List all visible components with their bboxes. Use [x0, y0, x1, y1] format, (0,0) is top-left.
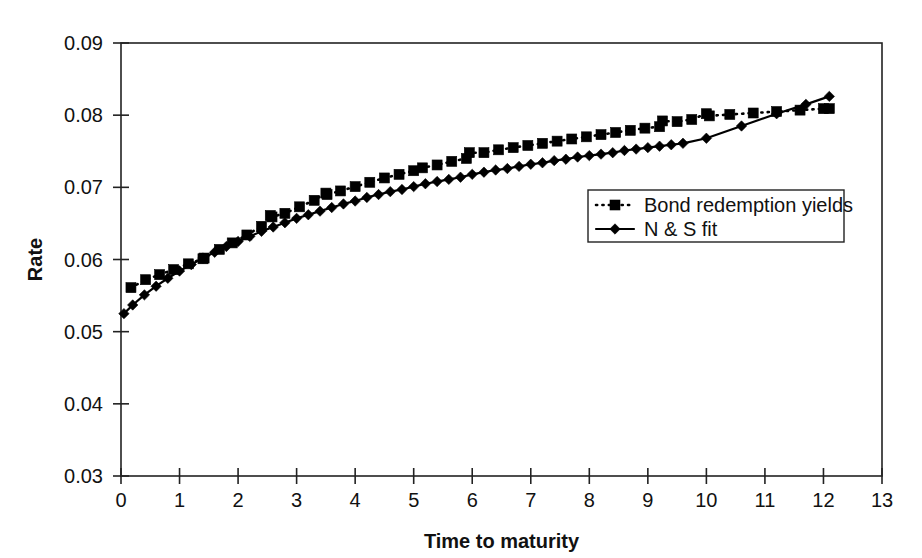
data-point-marker [432, 160, 442, 170]
data-point-marker [362, 192, 372, 202]
data-point-marker [336, 186, 346, 196]
x-tick-label: 10 [695, 489, 717, 511]
data-point-marker [309, 195, 319, 205]
data-point-marker [526, 159, 536, 169]
data-point-marker [549, 155, 559, 165]
x-axis-title: Time to maturity [424, 530, 580, 552]
data-point-marker [490, 165, 500, 175]
data-point-marker [824, 91, 834, 101]
data-point-marker [608, 147, 618, 157]
data-point-marker [631, 144, 641, 154]
y-tick-label: 0.04 [64, 393, 103, 415]
y-tick-label: 0.03 [64, 465, 103, 487]
data-point-marker [572, 152, 582, 162]
x-tick-label: 11 [755, 489, 776, 511]
data-point-marker [479, 148, 489, 158]
data-point-marker [141, 275, 151, 285]
legend-label: Bond redemption yields [644, 194, 853, 216]
data-point-marker [420, 179, 430, 189]
data-point-marker [280, 208, 290, 218]
x-axis-tick-labels: 012345678910111213 [115, 489, 893, 511]
data-point-marker [327, 202, 337, 212]
data-point-marker [464, 148, 474, 158]
plot-border [121, 43, 882, 476]
y-tick-label: 0.09 [64, 32, 103, 54]
yield-curve-chart: 0.030.040.050.060.070.080.09 01234567891… [0, 0, 922, 558]
data-point-marker [350, 196, 360, 206]
data-point-marker [385, 186, 395, 196]
data-point-marker [479, 167, 489, 177]
data-point-marker [291, 213, 301, 223]
data-point-marker [408, 181, 418, 191]
data-point-marker [678, 138, 688, 148]
data-point-marker [748, 108, 758, 118]
chart-container: 0.030.040.050.060.070.080.09 01234567891… [0, 0, 922, 558]
data-point-marker [514, 161, 524, 171]
data-point-marker [417, 163, 427, 173]
y-tick-label: 0.07 [64, 176, 103, 198]
data-point-marker [625, 125, 635, 135]
data-point-marker [581, 132, 591, 142]
data-point-marker [267, 212, 277, 222]
y-axis-title: Rate [24, 238, 46, 281]
data-point-marker [537, 158, 547, 168]
data-point-marker [502, 163, 512, 173]
data-point-marker [447, 156, 457, 166]
x-tick-label: 1 [174, 489, 185, 511]
y-tick-label: 0.08 [64, 104, 103, 126]
x-tick-label: 7 [525, 489, 536, 511]
data-point-marker [824, 104, 834, 114]
data-point-marker [640, 123, 650, 133]
y-tick-label: 0.06 [64, 249, 103, 271]
data-point-marker [643, 142, 653, 152]
data-point-marker [280, 217, 290, 227]
x-tick-label: 8 [584, 489, 595, 511]
data-point-marker [654, 141, 664, 151]
data-point-marker [508, 143, 518, 153]
data-point-marker [561, 154, 571, 164]
x-tick-label: 5 [408, 489, 419, 511]
data-point-marker [567, 134, 577, 144]
data-point-marker [611, 127, 621, 137]
chart-legend: Bond redemption yieldsN & S fit [588, 190, 853, 242]
data-point-marker [537, 138, 547, 148]
data-point-marker [736, 121, 746, 131]
data-point-marker [657, 116, 667, 126]
legend-swatch-marker [610, 200, 620, 210]
data-point-marker [322, 190, 332, 200]
data-point-marker [315, 206, 325, 216]
data-point-marker [596, 149, 606, 159]
data-point-marker [379, 173, 389, 183]
data-point-marker [350, 182, 360, 192]
x-tick-label: 12 [812, 489, 834, 511]
plot-frame [121, 43, 882, 476]
data-point-marker [701, 133, 711, 143]
data-point-marker [432, 176, 442, 186]
data-point-marker [373, 189, 383, 199]
x-tick-label: 3 [291, 489, 302, 511]
data-point-marker [596, 130, 606, 140]
x-tick-label: 2 [233, 489, 244, 511]
y-tick-label: 0.05 [64, 321, 103, 343]
legend-label: N & S fit [644, 218, 718, 240]
x-tick-label: 4 [350, 489, 361, 511]
x-tick-label: 13 [871, 489, 893, 511]
data-point-marker [365, 177, 375, 187]
data-point-marker [126, 283, 136, 293]
data-point-marker [444, 174, 454, 184]
y-axis-tick-labels: 0.030.040.050.060.070.080.09 [64, 32, 103, 487]
data-point-marker [455, 172, 465, 182]
data-point-marker [397, 184, 407, 194]
data-point-marker [338, 199, 348, 209]
data-point-marker [666, 140, 676, 150]
x-tick-label: 6 [467, 489, 478, 511]
data-point-marker [552, 136, 562, 146]
x-tick-label: 9 [642, 489, 653, 511]
data-point-marker [584, 150, 594, 160]
data-point-marker [672, 117, 682, 127]
data-point-marker [295, 202, 305, 212]
data-point-marker [494, 145, 504, 155]
data-point-marker [394, 169, 404, 179]
data-point-marker [268, 222, 278, 232]
x-tick-label: 0 [115, 489, 126, 511]
